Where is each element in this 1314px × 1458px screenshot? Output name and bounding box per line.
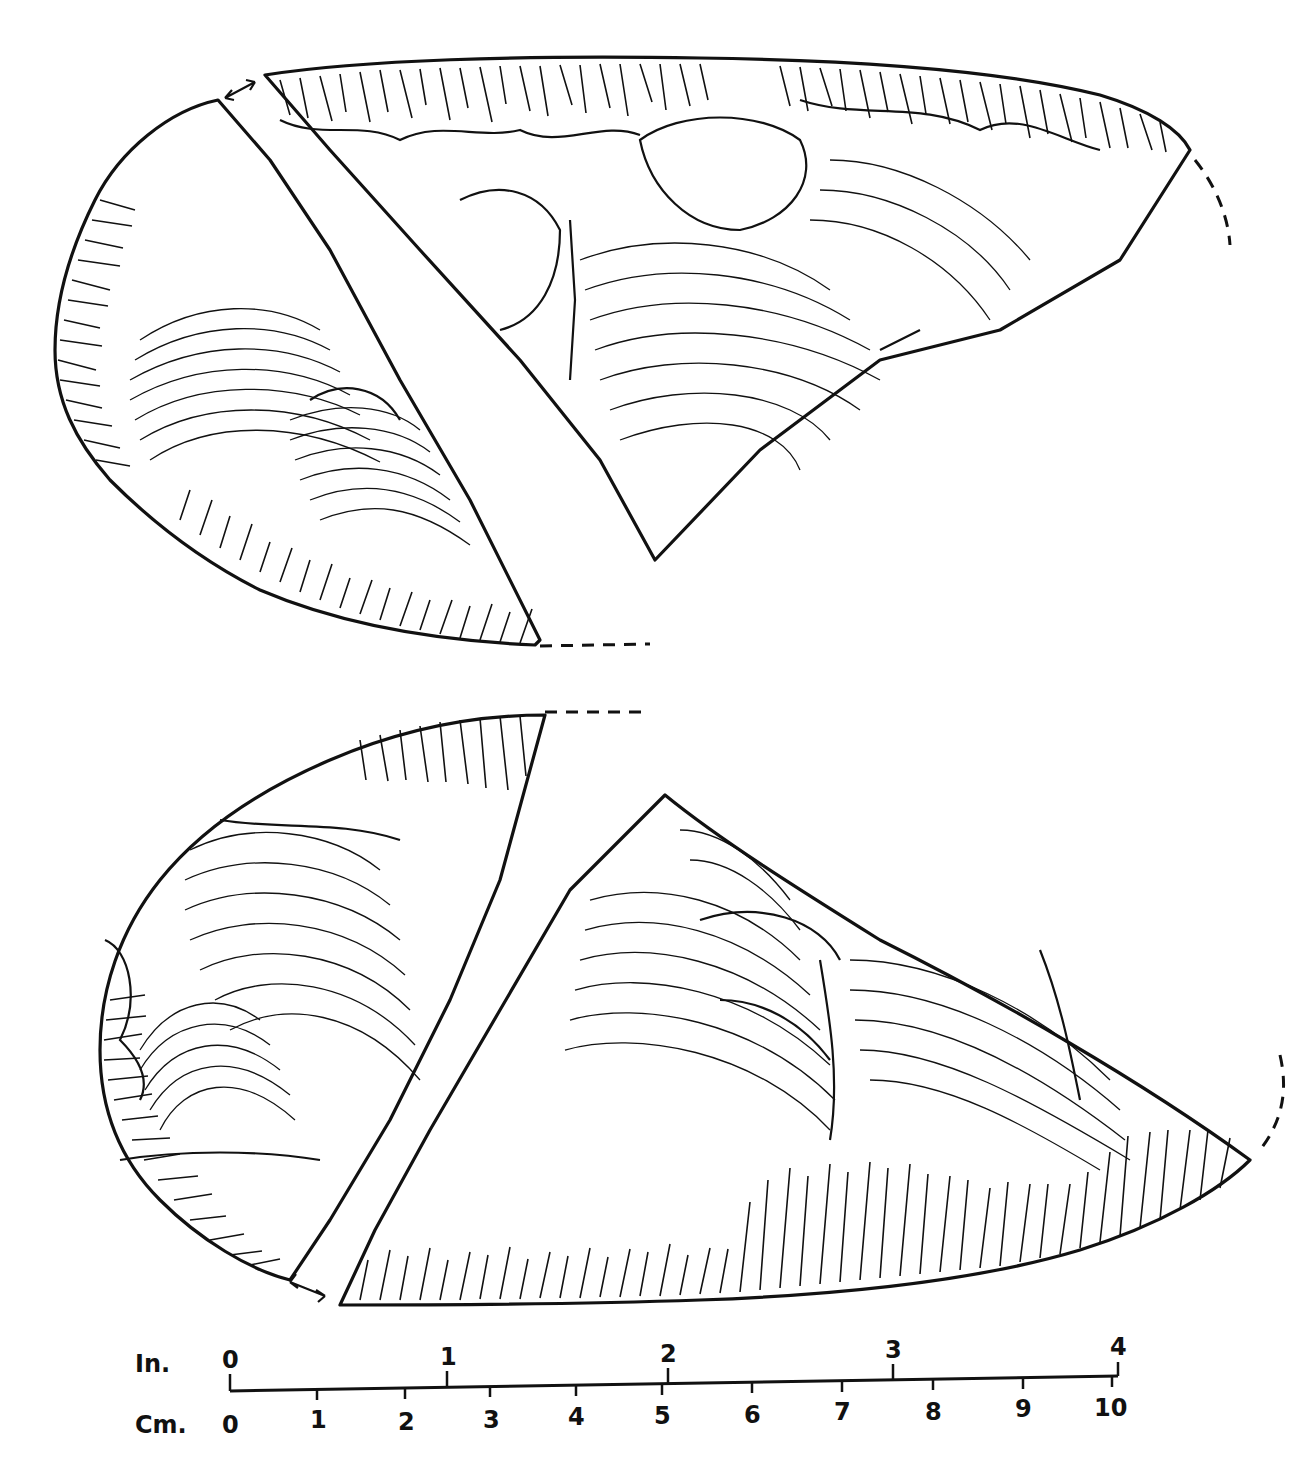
- cm-tick-label: 7: [834, 1398, 851, 1426]
- lower-missing-edge: [1260, 1055, 1284, 1150]
- inch-tick-label: 0: [222, 1346, 239, 1374]
- cm-tick-label: 10: [1094, 1394, 1127, 1422]
- retouch-top: [280, 64, 1166, 152]
- cm-label: Cm.: [135, 1411, 187, 1439]
- inch-label: In.: [135, 1350, 170, 1378]
- cm-tick-label: 9: [1015, 1395, 1032, 1423]
- flake-scars-lower: [105, 820, 1130, 1170]
- inch-tick-label: 4: [1110, 1333, 1127, 1361]
- break-arrow-icon: [225, 80, 255, 100]
- cm-tick-label: 1: [310, 1406, 327, 1434]
- cm-tick-label: 5: [654, 1402, 671, 1430]
- cm-tick-label: 4: [568, 1403, 585, 1431]
- cm-tick-label: 3: [483, 1406, 500, 1434]
- upper-missing-base: [540, 644, 650, 646]
- artifact-drawing: In. Cm. 0 1 2 3 4 0 1 2 3 4 5 6 7 8 9 10: [0, 0, 1314, 1458]
- flake-scars-upper: [130, 118, 1030, 546]
- inch-tick-label: 2: [660, 1340, 677, 1368]
- scale-bar: In. Cm. 0 1 2 3 4 0 1 2 3 4 5 6 7 8 9 10: [135, 1333, 1127, 1439]
- retouch-bottom: [104, 716, 1230, 1300]
- retouch-left: [58, 200, 532, 643]
- upper-missing-edge: [1195, 160, 1230, 245]
- scale-line: [230, 1376, 1118, 1391]
- lower-right-fragment: [340, 795, 1250, 1305]
- cm-tick-label: 0: [222, 1411, 239, 1439]
- cm-tick-label: 8: [925, 1398, 942, 1426]
- upper-view: [55, 57, 1230, 646]
- inch-tick-label: 3: [885, 1336, 902, 1364]
- lower-left-fragment: [100, 715, 545, 1280]
- cm-tick-label: 2: [398, 1408, 415, 1436]
- upper-left-fragment: [55, 100, 540, 645]
- cm-tick-label: 6: [744, 1401, 761, 1429]
- lower-view: [100, 712, 1284, 1305]
- inch-tick-label: 1: [440, 1343, 457, 1371]
- break-arrow-icon: [290, 1274, 325, 1302]
